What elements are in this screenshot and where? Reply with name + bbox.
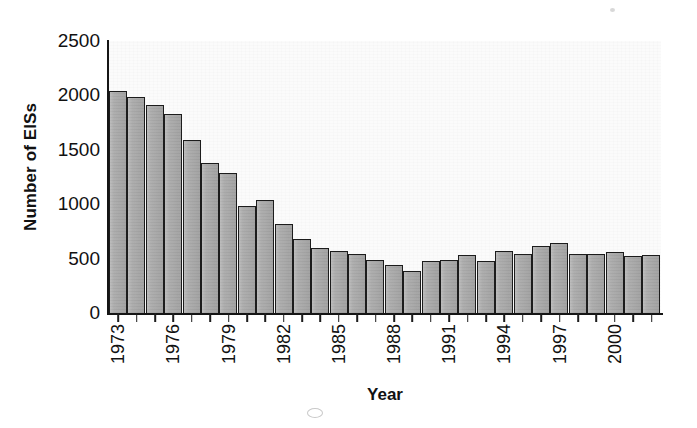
bar <box>256 200 274 313</box>
bar <box>606 252 624 313</box>
x-axis-tick <box>164 313 182 322</box>
bar <box>109 91 127 313</box>
x-axis-tick <box>642 313 660 322</box>
x-axis-label-slot <box>403 322 421 382</box>
x-axis-label-slot: 1994 <box>495 322 513 382</box>
x-axis-tick <box>201 313 219 322</box>
x-axis-label-slot <box>256 322 274 382</box>
bar-chart: Number of EISs 05001000150020002500 1973… <box>0 0 697 428</box>
x-axis-label-slot: 1997 <box>550 322 568 382</box>
x-axis-label-slot <box>587 322 605 382</box>
y-axis-tick-label: 2500 <box>44 31 100 50</box>
bar <box>477 261 495 313</box>
x-axis-label-slot <box>311 322 329 382</box>
x-axis-tick <box>219 313 237 322</box>
x-axis-tick <box>606 313 624 322</box>
x-axis-title: Year <box>109 385 661 405</box>
x-axis-tick <box>238 313 256 322</box>
x-axis-tick <box>477 313 495 322</box>
bar <box>219 173 237 313</box>
x-axis-tick-label: 1994 <box>495 324 513 364</box>
bar <box>422 261 440 313</box>
x-axis-tick <box>587 313 605 322</box>
x-axis-label-slot <box>514 322 532 382</box>
x-axis-tick <box>183 313 201 322</box>
x-axis-tick-label: 1991 <box>440 324 458 364</box>
bar <box>366 260 384 313</box>
bar <box>514 254 532 313</box>
x-axis-label-slot: 1982 <box>275 322 293 382</box>
bar <box>587 254 605 313</box>
bar <box>293 239 311 313</box>
x-axis-tick-label: 1982 <box>275 324 293 364</box>
y-axis-tick-label: 0 <box>44 303 100 322</box>
x-axis-tick <box>550 313 568 322</box>
plot-area <box>109 41 661 313</box>
bar <box>348 254 366 313</box>
x-axis-tick <box>256 313 274 322</box>
x-axis-tick <box>569 313 587 322</box>
scan-artifact-speck <box>610 8 615 12</box>
x-axis-label-slot <box>532 322 550 382</box>
x-axis-label-slot <box>238 322 256 382</box>
x-axis-label-slot <box>127 322 145 382</box>
bar <box>569 254 587 313</box>
x-axis-tick <box>311 313 329 322</box>
bar <box>146 105 164 313</box>
bar <box>440 260 458 313</box>
x-axis-tick-label: 1973 <box>109 324 127 364</box>
x-axis-tick <box>624 313 642 322</box>
bar <box>642 255 660 313</box>
x-axis-tick-label: 1985 <box>330 324 348 364</box>
bar <box>330 251 348 313</box>
bar <box>550 243 568 313</box>
bar <box>532 246 550 313</box>
bar <box>127 97 145 314</box>
x-axis-label-slot <box>458 322 476 382</box>
x-axis-tick <box>366 313 384 322</box>
x-axis-tick <box>495 313 513 322</box>
x-axis-label-slot: 1979 <box>219 322 237 382</box>
x-axis-tick-label: 1988 <box>385 324 403 364</box>
bar <box>275 224 293 313</box>
bar <box>495 251 513 313</box>
x-axis-label-slot: 2000 <box>606 322 624 382</box>
scan-artifact-ring <box>307 408 323 418</box>
x-axis-tick <box>109 313 127 322</box>
bar-series <box>109 41 661 313</box>
x-axis-label-slot: 1988 <box>385 322 403 382</box>
x-axis-label-slot <box>642 322 660 382</box>
y-axis-tick-label: 1500 <box>44 140 100 159</box>
x-axis-label-slot <box>348 322 366 382</box>
x-axis-tick-labels: 1973197619791982198519881991199419972000 <box>109 322 661 382</box>
x-axis-label-slot <box>477 322 495 382</box>
x-axis-tick <box>403 313 421 322</box>
x-axis-label-slot <box>422 322 440 382</box>
x-axis-tick-label: 1997 <box>551 324 569 364</box>
x-axis-tick <box>348 313 366 322</box>
bar <box>311 248 329 313</box>
x-axis-tick-label: 1979 <box>220 324 238 364</box>
x-axis-tick <box>422 313 440 322</box>
bar <box>164 114 182 313</box>
bar <box>385 265 403 313</box>
x-axis-label-slot: 1976 <box>164 322 182 382</box>
x-axis-label-slot: 1991 <box>440 322 458 382</box>
x-axis-tick <box>127 313 145 322</box>
x-axis-tick-label: 2000 <box>606 324 624 364</box>
x-axis-tick <box>293 313 311 322</box>
x-axis-label-slot <box>293 322 311 382</box>
bar <box>624 256 642 313</box>
x-axis-tick <box>514 313 532 322</box>
x-axis-tick <box>146 313 164 322</box>
x-axis-tick <box>532 313 550 322</box>
bar <box>238 206 256 313</box>
x-axis-tick <box>440 313 458 322</box>
y-axis-tick-label: 500 <box>44 249 100 268</box>
x-axis-label-slot <box>366 322 384 382</box>
x-axis-label-slot <box>624 322 642 382</box>
x-axis-label-slot: 1985 <box>330 322 348 382</box>
x-axis-label-slot: 1973 <box>109 322 127 382</box>
y-axis-tick-label: 1000 <box>44 194 100 213</box>
x-axis-ticks <box>109 313 661 322</box>
